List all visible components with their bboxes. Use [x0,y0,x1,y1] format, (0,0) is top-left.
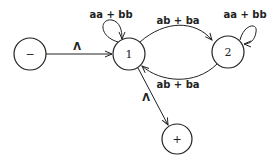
edge-1-loop: aa + bb [89,9,132,42]
state-start: − [14,38,46,70]
state-1-label: 1 [126,48,133,61]
edge-2-to-1: ab + ba [142,64,217,90]
state-2-label: 2 [225,46,232,59]
state-start-label: − [25,48,34,61]
state-final: + [162,124,192,154]
edge-label: ab + ba [156,79,199,90]
edge-label: Λ [142,92,150,103]
edge-label: ab + ba [156,15,199,26]
edge-1-to-final: Λ [138,68,168,125]
state-final-label: + [172,133,181,146]
state-1: 1 [113,38,145,70]
state-2: 2 [212,36,244,68]
edge-start-to-1: Λ [46,41,112,54]
edge-label: aa + bb [89,9,132,20]
automaton-diagram: − 1 2 + Λ aa + bb ab + ba ab + ba aa + b… [0,0,275,163]
edge-1-to-2: ab + ba [140,15,212,42]
edge-label: aa + bb [223,9,266,20]
edge-label: Λ [73,41,81,52]
